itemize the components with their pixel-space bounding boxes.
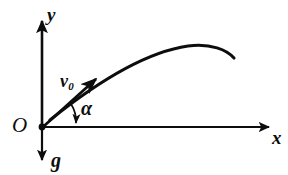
- initial-velocity-label: v0: [60, 72, 74, 92]
- projectile-motion-figure: y x O g α v0: [0, 0, 288, 175]
- gravity-label: g: [51, 150, 61, 170]
- origin-label: O: [12, 115, 27, 136]
- trajectory-curve: [50, 45, 234, 120]
- initial-velocity-symbol: v: [60, 71, 68, 91]
- launch-angle-label: α: [81, 98, 92, 118]
- diagram-canvas: [0, 0, 288, 175]
- initial-velocity-subscript: 0: [68, 80, 74, 92]
- launch-angle-arc: [71, 104, 76, 123]
- y-axis-label: y: [47, 5, 55, 24]
- x-axis-label: x: [272, 128, 282, 147]
